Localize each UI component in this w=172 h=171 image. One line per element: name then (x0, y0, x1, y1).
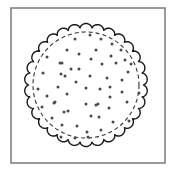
docking-hole (66, 93, 69, 96)
docking-hole (70, 68, 73, 71)
docking-hole (108, 107, 111, 110)
docking-hole (106, 77, 109, 80)
docking-hole (126, 101, 129, 104)
docking-hole (74, 38, 77, 41)
docking-hole (60, 136, 63, 139)
scalloped-cracker-edge (25, 23, 147, 146)
docking-hole (124, 59, 127, 62)
docking-hole (57, 86, 60, 89)
docking-hole (89, 75, 92, 78)
docking-hole (111, 43, 114, 46)
docking-hole (89, 34, 92, 37)
docking-hole (109, 96, 112, 99)
docking-hole (42, 72, 45, 75)
docking-hole (51, 117, 54, 120)
docking-hole (100, 38, 103, 41)
docking-hole (86, 131, 89, 134)
docking-hole (75, 81, 78, 84)
docking-hole (64, 75, 67, 78)
cracker-illustration (0, 0, 172, 171)
docking-hole (46, 95, 49, 98)
docking-hole (127, 71, 130, 74)
docking-hole (63, 111, 66, 114)
docking-hole (87, 136, 90, 139)
docking-hole (121, 79, 124, 82)
docking-hole (95, 49, 98, 52)
docking-hole (128, 120, 131, 123)
docking-hole (101, 63, 104, 66)
docking-hole (95, 104, 98, 107)
docking-hole (90, 115, 93, 118)
docking-hole (60, 73, 63, 76)
docking-hole (112, 121, 115, 124)
docking-hole (76, 125, 79, 128)
docking-hole (130, 63, 133, 66)
docking-hole (85, 87, 88, 90)
docking-hole (99, 88, 102, 91)
docking-hole (37, 88, 40, 91)
docking-hole (67, 110, 70, 113)
docking-hole (61, 62, 64, 65)
docking-hole (115, 62, 118, 65)
docking-hole (98, 116, 101, 119)
docking-hole (120, 49, 123, 52)
docking-hole (78, 53, 81, 56)
docking-hole (74, 137, 77, 140)
docking-hole (138, 92, 141, 95)
docking-hole (109, 86, 112, 89)
docking-hole (100, 129, 103, 132)
docking-hole (85, 103, 88, 106)
cracker (25, 23, 147, 146)
docking-hole (54, 101, 57, 104)
docking-hole (121, 91, 124, 94)
docking-hole (61, 124, 64, 127)
docking-hole (78, 68, 81, 71)
docking-hole (46, 56, 49, 59)
docking-hole (66, 49, 69, 52)
docking-hole (41, 106, 44, 109)
docking-hole (110, 55, 113, 58)
docking-hole (90, 58, 93, 61)
